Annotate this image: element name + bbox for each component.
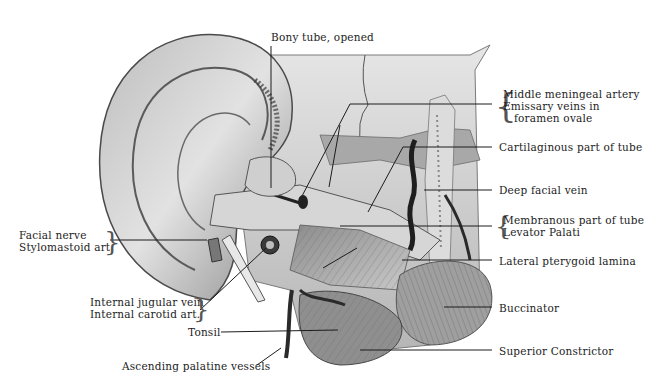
label-membranous-part-of-tube: Membranous part of tube xyxy=(503,214,644,226)
label-ascending-palatine-vessels: Ascending palatine vessels xyxy=(122,360,270,372)
label-middle-meningeal-artery: Middle meningeal artery xyxy=(503,88,640,100)
label-stylomastoid-art: Stylomastoid art. xyxy=(19,241,114,253)
brace-facial-nerve: } xyxy=(104,229,121,255)
label-emissary-veins: Emissary veins in xyxy=(503,100,600,112)
label-levator-palati: Levator Palati xyxy=(503,226,580,238)
label-tonsil: Tonsil xyxy=(188,326,221,338)
label-lateral-pterygoid-lamina: Lateral pterygoid lamina xyxy=(499,255,636,267)
label-foramen-ovale: foramen ovale xyxy=(503,112,592,124)
brace-jugular-carotid: } xyxy=(193,296,210,322)
label-internal-carotid-art: Internal carotid art. xyxy=(90,308,200,320)
label-buccinator: Buccinator xyxy=(499,302,559,314)
label-facial-nerve: Facial nerve xyxy=(19,229,87,241)
anatomy-figure: Bony tube, opened { Middle meningeal art… xyxy=(0,0,645,388)
label-bony-tube-opened: Bony tube, opened xyxy=(271,31,374,43)
label-cartilaginous-part-of-tube: Cartilaginous part of tube xyxy=(499,141,642,153)
label-internal-jugular-vein: Internal jugular vein xyxy=(90,296,204,308)
label-deep-facial-vein: Deep facial vein xyxy=(499,184,588,196)
label-superior-constrictor: Superior Constrictor xyxy=(499,345,614,357)
